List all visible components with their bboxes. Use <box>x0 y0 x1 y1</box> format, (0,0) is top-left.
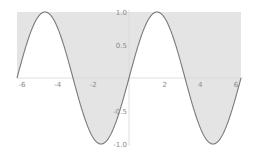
y-tick-label: -0.5 <box>113 108 127 116</box>
chart: -6-4-2246 1.00.5-0.5-1.0 <box>0 0 254 156</box>
x-tick-label: 2 <box>162 81 166 89</box>
x-tick-label: -6 <box>19 81 27 89</box>
x-tick-label: -4 <box>54 81 62 89</box>
y-tick-label: 1.0 <box>116 9 127 17</box>
x-tick-label: -2 <box>90 81 97 89</box>
x-tick-label: 6 <box>234 81 239 89</box>
y-tick-label: 0.5 <box>116 42 127 50</box>
x-tick-label: 4 <box>198 81 203 89</box>
y-tick-label: -1.0 <box>113 141 127 149</box>
